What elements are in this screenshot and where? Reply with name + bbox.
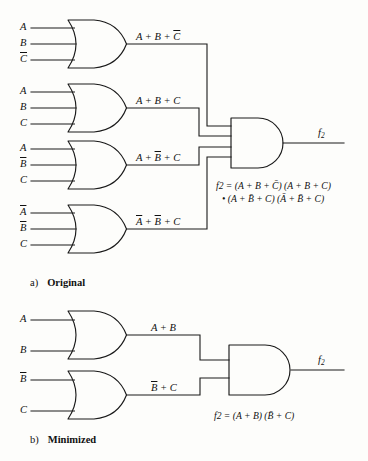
- wire-or5-out: [127, 335, 230, 360]
- input-label-or2-c: C: [20, 118, 27, 129]
- and-gate-2: [229, 345, 290, 395]
- input-label-or4-b-bar: B: [20, 223, 26, 234]
- or-gate-4: [68, 205, 127, 253]
- output-label-or1: A + B + C: [136, 32, 180, 43]
- caption-part-b: b)Minimized: [30, 434, 96, 445]
- logic-circuit-figure: A B C A B C A B C A B C A + B + C A + B …: [0, 0, 368, 461]
- output-label-or6: B + C: [151, 383, 177, 394]
- input-label-or6-b-bar: B: [20, 374, 26, 385]
- equation-text: f2 = (A + B + C̄) (A + B + C): [216, 180, 331, 191]
- input-label-or1-b: B: [20, 38, 26, 49]
- input-label-or2-b: B: [20, 102, 26, 113]
- f-subscript: 2: [321, 131, 325, 140]
- or-gate-3: [68, 141, 127, 189]
- overline-c: C: [20, 53, 27, 64]
- equation-text: f2 = (A + B) (B̄ + C): [214, 410, 294, 421]
- expr-prefix: A +: [136, 152, 155, 163]
- output-label-or4: A + B + C: [136, 217, 180, 228]
- f-subscript: 2: [321, 358, 325, 367]
- circuit-svg: [0, 0, 368, 461]
- output-label-f2-minimized: f2: [318, 355, 325, 366]
- or-gate-6: [68, 371, 127, 419]
- equation-original-line2: • (A + B̄ + C) (Ā + B̄ + C): [222, 193, 324, 205]
- input-label-or3-a: A: [20, 143, 26, 154]
- input-label-or3-c: C: [20, 175, 27, 186]
- overline-b: B: [20, 158, 26, 169]
- overline-b: B: [20, 222, 26, 233]
- expr-suffix: + C: [157, 382, 176, 393]
- overline-a: A: [20, 206, 26, 217]
- wire-or1-out: [127, 44, 232, 126]
- output-label-or3: A + B + C: [136, 153, 180, 164]
- input-label-or1-a: A: [20, 22, 26, 33]
- caption-text: Original: [47, 277, 85, 288]
- equation-minimized: f2 = (A + B) (B̄ + C): [214, 410, 294, 422]
- and-gate-1: [231, 118, 283, 168]
- input-label-or2-a: A: [20, 86, 26, 97]
- caption-letter: b): [30, 434, 39, 445]
- input-label-or5-b: B: [20, 345, 26, 356]
- caption-part-a: a)Original: [30, 277, 85, 288]
- or-gate-2: [68, 84, 127, 132]
- input-label-or6-c: C: [20, 405, 27, 416]
- input-label-or4-a-bar: A: [20, 207, 26, 218]
- expr-mid: +: [142, 216, 154, 227]
- or-gate-5: [68, 311, 127, 359]
- input-label-or5-a: A: [20, 314, 26, 325]
- caption-letter: a): [30, 277, 38, 288]
- expr-suffix: + C: [161, 216, 180, 227]
- caption-text: Minimized: [48, 434, 96, 445]
- equation-text: • (A + B̄ + C) (Ā + B̄ + C): [222, 193, 324, 204]
- output-label-or2: A + B + C: [136, 96, 180, 107]
- output-label-or5: A + B: [151, 323, 176, 334]
- or-gate-1: [68, 20, 127, 68]
- expr-suffix: + C: [161, 152, 180, 163]
- overline-b: B: [20, 373, 26, 384]
- wire-or6-out: [127, 378, 230, 395]
- input-label-or1-c-bar: C: [20, 54, 27, 65]
- output-label-f2-original: f2: [318, 128, 325, 139]
- input-label-or3-b-bar: B: [20, 159, 26, 170]
- equation-original-line1: f2 = (A + B + C̄) (A + B + C): [216, 180, 331, 192]
- wire-or2-out: [127, 108, 232, 136]
- expr-prefix: A + B +: [136, 31, 173, 42]
- input-label-or4-c: C: [20, 239, 27, 250]
- overline-c: C: [173, 31, 180, 42]
